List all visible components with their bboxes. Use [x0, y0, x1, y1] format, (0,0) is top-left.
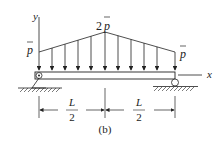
y-axis-label: y [32, 10, 38, 22]
x-axis-label: x [206, 68, 212, 80]
svg-text:2: 2 [69, 111, 75, 123]
y-axis: y [32, 10, 39, 70]
svg-text:p: p [26, 43, 33, 57]
dimension-lines [39, 88, 175, 118]
svg-text:2: 2 [96, 19, 102, 33]
roller-support [153, 79, 198, 91]
load-label-right: p [179, 46, 186, 61]
beam [35, 72, 175, 79]
svg-text:2: 2 [136, 111, 142, 123]
dimension-label-right: L 2 [133, 96, 145, 123]
x-axis: x [178, 68, 212, 80]
beam-diagram: y p 2 p p x [0, 0, 224, 143]
svg-text:L: L [135, 96, 142, 108]
load-label-peak: 2 p [96, 17, 110, 33]
figure-caption: (b) [99, 123, 112, 136]
svg-text:p: p [103, 19, 110, 33]
svg-text:p: p [179, 47, 186, 61]
dimension-label-left: L 2 [66, 96, 78, 123]
svg-text:L: L [68, 96, 75, 108]
load-label-left: p [26, 42, 33, 57]
distributed-load [39, 32, 175, 70]
